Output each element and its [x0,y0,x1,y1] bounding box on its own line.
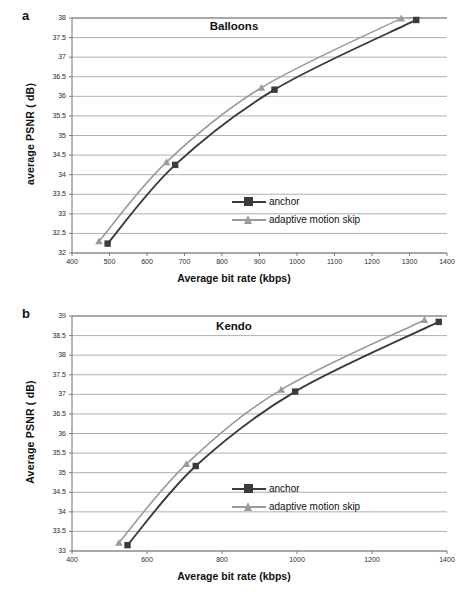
x-tick-label: 1000 [277,258,317,265]
x-axis-title-b: Average bit rate (kbps) [0,570,468,582]
legend-label-adaptive: adaptive motion skip [269,214,360,225]
y-tick-label: 34.5 [30,151,66,158]
x-tick-label: 1200 [352,258,392,265]
legend-label-anchor: anchor [269,483,300,494]
y-tick-label: 34 [30,508,66,515]
y-tick-label: 35 [30,469,66,476]
plot-area-b [0,300,468,592]
x-axis-title-a: Average bit rate (kbps) [0,272,468,284]
y-tick-label: 34 [30,171,66,178]
y-tick-label: 38 [30,14,66,21]
x-tick-label: 600 [127,556,167,563]
y-tick-label: 36 [30,92,66,99]
x-tick-label: 1400 [427,556,467,563]
figure-rate-distortion-curves: a average PSNR ( dB) Balloons 3232.53333… [0,0,468,614]
y-tick-label: 32.5 [30,229,66,236]
x-tick-label: 600 [127,258,167,265]
legend-key-square-icon [232,482,266,494]
y-tick-label: 38 [30,351,66,358]
y-tick-label: 37 [30,390,66,397]
x-tick-label: 1100 [315,258,355,265]
legend-b: anchor adaptive motion skip [232,479,360,515]
x-tick-label: 400 [52,556,92,563]
x-tick-label: 900 [240,258,280,265]
y-tick-label: 35 [30,132,66,139]
x-tick-label: 1300 [390,258,430,265]
x-tick-label: 800 [202,556,242,563]
y-tick-label: 37.5 [30,371,66,378]
y-tick-label: 33.5 [30,190,66,197]
x-tick-label: 400 [52,258,92,265]
y-tick-label: 33 [30,210,66,217]
y-tick-label: 36 [30,430,66,437]
legend-key-square-icon [232,195,266,207]
y-tick-label: 37.5 [30,34,66,41]
legend-row-anchor[interactable]: anchor [232,192,360,210]
legend-a: anchor adaptive motion skip [232,192,360,228]
x-tick-label: 1400 [427,258,467,265]
y-tick-label: 39 [30,312,66,319]
y-tick-label: 32 [30,249,66,256]
x-tick-label: 1000 [277,556,317,563]
y-tick-label: 37 [30,53,66,60]
y-tick-label: 34.5 [30,488,66,495]
plot-area-a [0,0,468,300]
y-tick-label: 35.5 [30,449,66,456]
legend-label-anchor: anchor [269,196,300,207]
panel-b-kendo: b Average PSNR ( dB) Kendo 3333.53434.53… [0,300,468,592]
legend-key-triangle-icon [232,500,266,512]
x-tick-label: 1200 [352,556,392,563]
y-tick-label: 38.5 [30,332,66,339]
x-tick-label: 700 [165,258,205,265]
legend-row-anchor[interactable]: anchor [232,479,360,497]
y-tick-label: 36.5 [30,410,66,417]
legend-label-adaptive: adaptive motion skip [269,501,360,512]
legend-row-adaptive[interactable]: adaptive motion skip [232,210,360,228]
x-tick-label: 800 [202,258,242,265]
legend-row-adaptive[interactable]: adaptive motion skip [232,497,360,515]
y-tick-label: 35.5 [30,112,66,119]
y-tick-label: 33.5 [30,527,66,534]
panel-a-balloons: a average PSNR ( dB) Balloons 3232.53333… [0,0,468,300]
legend-key-triangle-icon [232,213,266,225]
y-tick-label: 36.5 [30,73,66,80]
x-tick-label: 500 [90,258,130,265]
y-tick-label: 33 [30,547,66,554]
